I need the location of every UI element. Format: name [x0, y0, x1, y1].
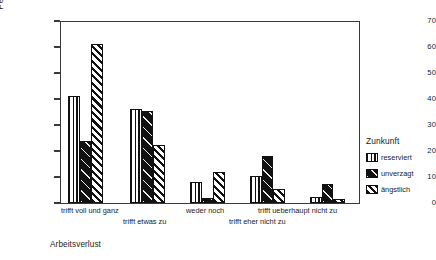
legend: Zunkunft reserviertunverzagtängstlich	[366, 136, 436, 201]
bar	[91, 44, 103, 203]
y-axis-title-text: Percent	[0, 0, 5, 52]
x-axis-label: trifft voll und ganz	[61, 206, 119, 215]
legend-swatch-ängstlich	[366, 185, 378, 194]
bar	[213, 172, 225, 203]
bar	[153, 145, 165, 203]
legend-item: reserviert	[366, 153, 436, 162]
x-axis-label: trifft eher nicht zu	[229, 217, 286, 226]
bar-chart: Percent 010203040506070 trifft voll und …	[0, 0, 436, 260]
x-axis-label: trifft ueberhaupt nicht zu	[258, 206, 337, 215]
bar	[80, 141, 92, 203]
legend-item: ängstlich	[366, 185, 436, 194]
legend-swatch-reserviert	[366, 153, 378, 162]
legend-item-label: ängstlich	[381, 185, 410, 194]
bar-series-layer	[60, 21, 360, 203]
x-axis-label: weder noch	[186, 206, 224, 215]
y-tick-label: 70	[390, 16, 436, 25]
bar	[333, 199, 345, 203]
legend-item-label: reserviert	[381, 153, 412, 162]
bar	[322, 184, 334, 204]
bar	[190, 182, 202, 203]
legend-swatch-unverzagt	[366, 169, 378, 178]
y-axis-title: Percent	[0, 0, 10, 52]
y-tick-label: 40	[390, 94, 436, 103]
x-axis-label: trifft etwas zu	[123, 217, 166, 226]
legend-item: unverzagt	[366, 169, 436, 178]
bar	[262, 156, 274, 203]
bar	[142, 111, 154, 203]
bar	[202, 198, 214, 203]
bar	[250, 176, 262, 203]
y-tick-label: 30	[390, 120, 436, 129]
bar	[130, 109, 142, 203]
bar	[273, 189, 285, 203]
legend-items: reserviertunverzagtängstlich	[366, 153, 436, 194]
legend-item-label: unverzagt	[381, 169, 413, 178]
y-tick-label: 50	[390, 68, 436, 77]
x-axis-line	[60, 203, 360, 204]
bar	[68, 96, 80, 203]
y-tick-label: 60	[390, 42, 436, 51]
chart-caption: Arbeitsverlust	[50, 240, 101, 249]
bar	[310, 197, 322, 204]
legend-title: Zunkunft	[366, 136, 436, 146]
